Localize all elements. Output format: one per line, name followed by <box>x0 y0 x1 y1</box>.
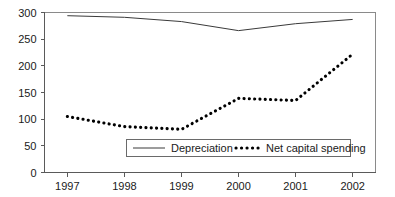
y-tick-label: 50 <box>24 140 36 152</box>
chart-container: 050100150200250300 199719981999200020012… <box>0 0 395 197</box>
y-tick-label: 0 <box>30 167 36 179</box>
y-tick-label: 250 <box>18 33 36 45</box>
x-tick-label: 1999 <box>169 180 193 192</box>
y-tick-label: 300 <box>18 7 36 19</box>
x-tick-label: 2000 <box>226 180 250 192</box>
series-net-capital-spending <box>67 54 352 129</box>
data-series-group <box>67 16 352 130</box>
legend-label-depreciation: Depreciation <box>171 142 233 154</box>
legend-label-net-capital-spending: Net capital spending <box>266 142 366 154</box>
y-tick-label: 150 <box>18 87 36 99</box>
y-tick-label: 200 <box>18 60 36 72</box>
line-chart: 050100150200250300 199719981999200020012… <box>0 0 395 197</box>
chart-legend[interactable]: Depreciation Net capital spending <box>127 140 366 157</box>
y-axis-ticks: 050100150200250300 <box>18 7 44 179</box>
x-tick-label: 2001 <box>283 180 307 192</box>
x-tick-label: 1997 <box>55 180 79 192</box>
series-depreciation <box>67 16 352 31</box>
x-tick-label: 2002 <box>340 180 364 192</box>
x-axis-ticks: 199719981999200020012002 <box>55 173 365 192</box>
x-tick-label: 1998 <box>112 180 136 192</box>
y-tick-label: 100 <box>18 113 36 125</box>
